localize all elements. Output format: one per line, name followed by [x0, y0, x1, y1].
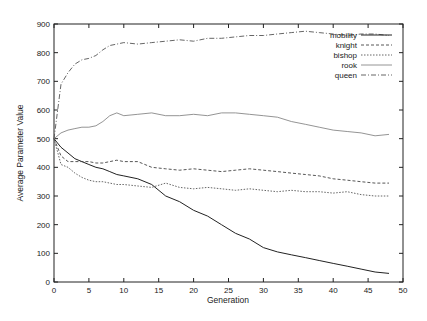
- y-tick-label: 300: [37, 192, 51, 201]
- y-tick-label: 0: [46, 278, 51, 287]
- y-tick-label: 800: [37, 49, 51, 58]
- legend-label-mobility: mobility: [330, 31, 357, 40]
- x-tick-label: 10: [119, 286, 128, 295]
- series-rook: [54, 113, 389, 139]
- y-tick-label: 900: [37, 20, 51, 29]
- y-tick-label: 600: [37, 106, 51, 115]
- series-knight: [54, 139, 389, 183]
- x-tick-label: 45: [364, 286, 373, 295]
- legend-label-queen: queen: [335, 71, 357, 80]
- x-tick-label: 35: [294, 286, 303, 295]
- x-tick-label: 5: [87, 286, 92, 295]
- x-tick-label: 15: [154, 286, 163, 295]
- y-tick-label: 400: [37, 163, 51, 172]
- legend: mobilityknightbishoprookqueen: [330, 31, 392, 80]
- y-tick-label: 700: [37, 77, 51, 86]
- x-axis-label: Generation: [207, 295, 249, 305]
- legend-label-bishop: bishop: [333, 51, 357, 60]
- x-tick-label: 30: [259, 286, 268, 295]
- line-chart: 0100200300400500600700800900 05101520253…: [0, 0, 427, 321]
- y-tick-label: 100: [37, 249, 51, 258]
- y-axis-label: Average Parameter Value: [15, 104, 25, 201]
- x-tick-label: 0: [52, 286, 57, 295]
- y-tick-label: 200: [37, 221, 51, 230]
- series-lines: [54, 31, 389, 273]
- x-tick-label: 50: [399, 286, 408, 295]
- legend-label-knight: knight: [336, 41, 358, 50]
- y-tick-label: 500: [37, 135, 51, 144]
- legend-label-rook: rook: [341, 61, 358, 70]
- x-tick-label: 20: [189, 286, 198, 295]
- x-tick-label: 40: [329, 286, 338, 295]
- x-tick-label: 25: [224, 286, 233, 295]
- series-mobility: [54, 139, 389, 274]
- series-bishop: [54, 139, 389, 196]
